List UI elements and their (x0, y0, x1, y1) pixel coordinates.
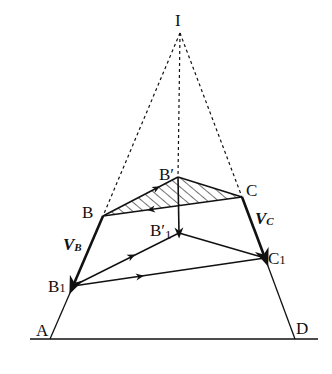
velocity-diagram: I A D B C B′ B′1 B1 C1 VB VC (0, 0, 332, 374)
dashed-line-I-C (180, 33, 242, 197)
label-C1: C1 (268, 249, 286, 268)
label-B1-main: B (48, 277, 59, 296)
label-Bprime1-sub: 1 (165, 227, 172, 242)
label-B: B (82, 203, 93, 222)
label-A: A (36, 321, 49, 340)
label-VB: VB (63, 235, 82, 254)
label-B1: B1 (48, 277, 66, 296)
label-VC-sub: C (266, 215, 274, 227)
label-C1-sub: 1 (279, 252, 286, 267)
label-I: I (175, 11, 181, 30)
label-D: D (296, 319, 308, 338)
segment-Bprime-Bprime1 (178, 177, 179, 233)
segment-Bprime1-C1 (179, 233, 265, 258)
label-Bprime: B′ (159, 165, 174, 184)
label-B1-sub: 1 (59, 280, 66, 295)
label-C1-main: C (268, 249, 279, 268)
label-VB-sub: B (73, 241, 81, 253)
label-C: C (246, 181, 257, 200)
arrow-B1-Bprime1-icon (126, 251, 136, 261)
label-VC: VC (255, 209, 274, 228)
label-Bprime1-main: B′ (150, 221, 165, 240)
dashed-line-I-Bprime (178, 33, 180, 177)
label-Bprime1: B′1 (150, 221, 172, 242)
diagram-canvas: I A D B C B′ B′1 B1 C1 VB VC (0, 0, 332, 374)
segment-C1-D (265, 258, 295, 339)
